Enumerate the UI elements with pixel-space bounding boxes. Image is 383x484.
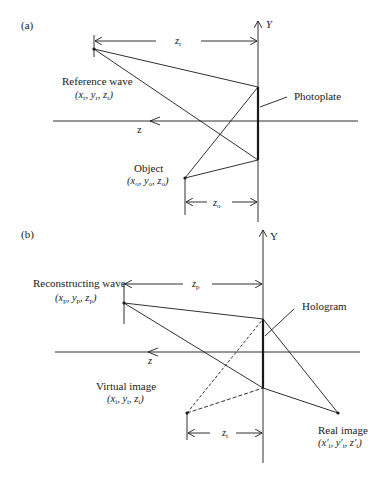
reference-wave-label: Reference wave [62,75,133,87]
zp-dimension-label: zp [192,277,200,293]
virtual-image-label: Virtual image [96,380,156,392]
reconstructing-wave-label: Reconstructing wave [33,277,126,289]
zo-dimension-label: zo [213,196,221,212]
reconstruct-ray-top [124,303,263,319]
holography-diagram [0,0,383,484]
reference-ray-bottom [94,49,258,160]
virtual-ray-bottom [187,388,263,413]
panel-a-geometry [53,21,358,222]
photoplate-leader [260,97,287,107]
y-axis-b-label: Y [270,230,278,242]
real-ray-bottom [263,388,338,413]
virtual-image-point [185,411,188,414]
real-image-coords: (x′i, y′i, z′i) [318,437,362,452]
reference-point [92,47,95,50]
real-ray-top [263,319,338,413]
object-ray-top [185,87,258,178]
reference-wave-coords: (xr, yr, zr) [75,89,113,104]
zi-dimension-label: zi [222,426,228,442]
object-label: Object [134,162,163,174]
virtual-ray-top [187,319,263,413]
z-axis-b-label: z [148,355,152,367]
y-axis-a-label: Y [266,19,272,31]
zr-dimension-label: zr [175,34,181,50]
object-point [183,176,186,179]
hologram-label: Hologram [302,300,347,312]
object-coords: (xo, yo, zo) [127,175,168,190]
photoplate-label: Photoplate [294,90,341,102]
virtual-image-coords: (xi, yi, zi) [107,393,144,408]
panel-a-tag: (a) [21,19,33,31]
reconstructing-point [122,301,125,304]
panel-b-geometry [55,230,360,463]
real-image-label: Real image [318,424,368,436]
panel-b-tag: (b) [21,228,34,240]
hologram-leader [265,309,294,336]
reconstructing-wave-coords: (xp, yp, zp) [55,292,96,307]
real-image-point [336,411,339,414]
object-ray-bottom [185,160,258,178]
z-axis-a-label: z [137,124,142,136]
